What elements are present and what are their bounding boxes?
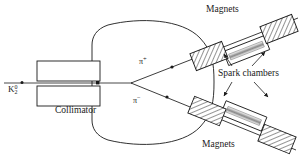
magnet-upper-2 bbox=[260, 14, 298, 43]
arrow-down-right bbox=[254, 82, 268, 97]
label-pi-plus: π+ bbox=[139, 56, 147, 66]
diagram-canvas bbox=[0, 0, 302, 165]
label-pi-minus: π− bbox=[133, 95, 141, 105]
spark-chamber-upper-inner bbox=[223, 36, 269, 66]
kaon-symbol-stack: K02 bbox=[8, 85, 15, 94]
label-magnets-bottom: Magnets bbox=[202, 140, 235, 150]
pi-minus-charge: − bbox=[137, 94, 141, 101]
arm-upper bbox=[190, 14, 298, 70]
spark-chamber-lower-inner bbox=[220, 101, 266, 131]
kaon-subscript: 2 bbox=[15, 89, 18, 95]
collimator-jaw-upper bbox=[37, 61, 100, 81]
collimator-jaw-lower bbox=[37, 86, 100, 106]
magnet-lower-2 bbox=[258, 124, 296, 153]
collimator bbox=[37, 61, 100, 106]
label-magnets-top: Magnets bbox=[206, 5, 239, 15]
arrow-down-left bbox=[224, 82, 232, 96]
decay-volume bbox=[92, 21, 214, 145]
apparatus-diagram: Magnets Magnets Spark chambers Collimato… bbox=[0, 0, 302, 165]
pi-plus-charge: + bbox=[143, 55, 147, 62]
label-spark-chambers: Spark chambers bbox=[218, 69, 279, 79]
label-collimator: Collimator bbox=[55, 106, 96, 116]
label-kaon-beam: K02 bbox=[8, 85, 15, 94]
